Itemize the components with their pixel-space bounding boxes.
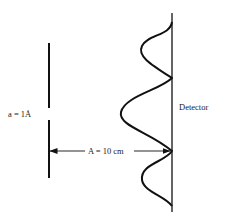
- distance-label: A = 10 cm: [88, 146, 124, 156]
- slit-width-label: a = 1Å: [8, 109, 32, 119]
- diffraction-diagram: a = 1Å Detector A = 10 cm: [0, 0, 228, 221]
- detector-label: Detector: [179, 102, 208, 112]
- intensity-pattern-curve: [121, 22, 172, 206]
